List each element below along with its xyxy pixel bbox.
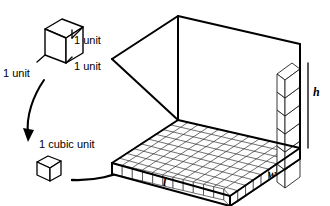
- prism-width-label: w: [268, 168, 276, 180]
- tick-left-edge: [37, 55, 45, 62]
- front-cube-face: [173, 177, 183, 190]
- cubic-unit-label: 1 cubic unit: [39, 139, 95, 150]
- arrow-curve-down-left: [23, 80, 44, 142]
- unit-cube-label-front: 1 unit: [74, 61, 101, 72]
- prism-height-cube-column: [277, 63, 300, 188]
- arrow-curve-down-left-shaft: [28, 80, 44, 134]
- prism-height-label: h: [313, 86, 320, 98]
- prism-length-label: l: [163, 176, 166, 188]
- unit-cube-label-right: 1 unit: [74, 35, 101, 46]
- arrow-curve-down-left-head: [23, 128, 34, 142]
- cubic-unit-cube-shape: [37, 156, 61, 181]
- prism-top-rim-left-front: [112, 59, 178, 120]
- prism-top-rim-back-left: [112, 16, 178, 59]
- prism-top-rim-back-right: [178, 16, 300, 44]
- diagram-canvas: 1 unit 1 unit 1 unit 1 cubic unit l w h: [0, 0, 330, 206]
- unit-cube-label-left: 1 unit: [3, 68, 30, 79]
